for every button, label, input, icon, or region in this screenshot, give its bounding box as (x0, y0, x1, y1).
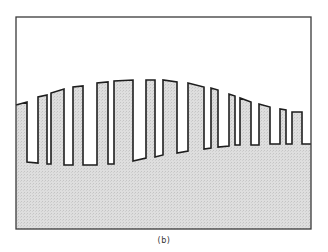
pulse-waveform-figure: (b) (0, 0, 328, 252)
figure-caption: (b) (0, 236, 328, 245)
waveform-plot (0, 0, 328, 252)
